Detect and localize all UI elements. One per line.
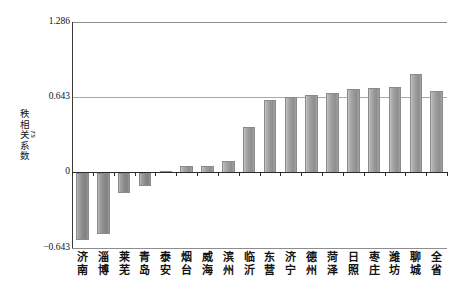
x-tick-label: 青岛 bbox=[135, 252, 155, 278]
x-axis-tick-marks bbox=[72, 172, 447, 177]
x-tick-label: 全省 bbox=[427, 252, 447, 278]
bar bbox=[97, 173, 110, 234]
x-tick-mark bbox=[155, 172, 156, 176]
bar bbox=[222, 161, 235, 173]
x-tick-label-char: 庄 bbox=[364, 265, 384, 278]
x-tick-label-char: 台 bbox=[177, 265, 197, 278]
x-tick-label: 临沂 bbox=[239, 252, 259, 278]
x-tick-mark bbox=[239, 172, 240, 176]
x-tick-mark bbox=[280, 172, 281, 176]
x-tick-label-char: 宁 bbox=[281, 265, 301, 278]
x-tick-label-char: 营 bbox=[260, 265, 280, 278]
x-tick-label-char: 海 bbox=[197, 265, 217, 278]
x-tick-mark bbox=[72, 172, 73, 176]
x-tick-label: 东营 bbox=[260, 252, 280, 278]
bar bbox=[430, 91, 443, 172]
x-tick-mark bbox=[135, 172, 136, 176]
x-tick-label-char: 坊 bbox=[385, 265, 405, 278]
x-tick-mark bbox=[218, 172, 219, 176]
bar bbox=[347, 89, 360, 172]
x-tick-label-char: 南 bbox=[72, 265, 92, 278]
x-tick-label-char: 安 bbox=[156, 265, 176, 278]
x-tick-label: 济宁 bbox=[281, 252, 301, 278]
x-tick-label: 泰安 bbox=[156, 252, 176, 278]
x-axis-tick-labels: 济南淄博莱芜青岛泰安烟台威海滨州临沂东营济宁德州菏泽日照枣庄潍坊聊城全省 bbox=[72, 252, 447, 298]
bar bbox=[389, 87, 402, 172]
x-tick-label-char: 州 bbox=[302, 265, 322, 278]
bar bbox=[410, 74, 423, 172]
x-tick-label: 淄博 bbox=[93, 252, 113, 278]
x-tick-label-char: 芜 bbox=[114, 265, 134, 278]
x-tick-mark bbox=[301, 172, 302, 176]
x-tick-mark bbox=[260, 172, 261, 176]
x-tick-mark bbox=[343, 172, 344, 176]
x-tick-label-char: 泽 bbox=[322, 265, 342, 278]
x-tick-label-char: 照 bbox=[343, 265, 363, 278]
bar bbox=[285, 97, 298, 172]
x-tick-label: 菏泽 bbox=[322, 252, 342, 278]
y-tick-label-neg0643: −0.643 bbox=[43, 243, 70, 253]
y-tick-label-0643: 0.643 bbox=[49, 92, 70, 102]
plot-frame-bottom-line bbox=[72, 248, 447, 249]
bar bbox=[305, 95, 318, 172]
x-tick-mark bbox=[385, 172, 386, 176]
x-tick-mark bbox=[322, 172, 323, 176]
bar bbox=[76, 173, 89, 240]
y-tick-label-0: 0 bbox=[65, 167, 70, 177]
x-tick-mark bbox=[364, 172, 365, 176]
x-tick-label: 滨州 bbox=[218, 252, 238, 278]
x-tick-label: 德州 bbox=[302, 252, 322, 278]
y-axis-title-text: 秩相关系数 bbox=[19, 109, 29, 162]
x-tick-label: 烟台 bbox=[177, 252, 197, 278]
x-tick-label-char: 沂 bbox=[239, 265, 259, 278]
x-tick-label-char: 省 bbox=[427, 265, 447, 278]
x-tick-label: 莱芜 bbox=[114, 252, 134, 278]
x-tick-label-char: 州 bbox=[218, 265, 238, 278]
x-tick-mark bbox=[176, 172, 177, 176]
bar bbox=[243, 127, 256, 172]
chart-figure: 秩相关系数 rs 1.286 0.643 0 −0.643 济南淄博莱芜青岛泰安… bbox=[0, 0, 455, 299]
x-tick-label-char: 城 bbox=[406, 265, 426, 278]
x-tick-label: 潍坊 bbox=[385, 252, 405, 278]
bar bbox=[368, 88, 381, 172]
x-tick-label: 日照 bbox=[343, 252, 363, 278]
x-tick-mark bbox=[447, 172, 448, 176]
y-axis-tick-labels: 1.286 0.643 0 −0.643 bbox=[34, 0, 70, 299]
x-tick-mark bbox=[426, 172, 427, 176]
y-tick-label-1286: 1.286 bbox=[49, 17, 70, 27]
x-tick-mark bbox=[197, 172, 198, 176]
x-tick-label: 聊城 bbox=[406, 252, 426, 278]
bar bbox=[326, 93, 339, 172]
x-tick-label: 威海 bbox=[197, 252, 217, 278]
bar bbox=[264, 100, 277, 172]
x-tick-label-char: 博 bbox=[93, 265, 113, 278]
bar-series bbox=[72, 22, 447, 248]
x-tick-label: 枣庄 bbox=[364, 252, 384, 278]
x-tick-mark bbox=[114, 172, 115, 176]
x-tick-label-char: 岛 bbox=[135, 265, 155, 278]
x-tick-mark bbox=[93, 172, 94, 176]
x-tick-mark bbox=[405, 172, 406, 176]
x-tick-label: 济南 bbox=[72, 252, 92, 278]
